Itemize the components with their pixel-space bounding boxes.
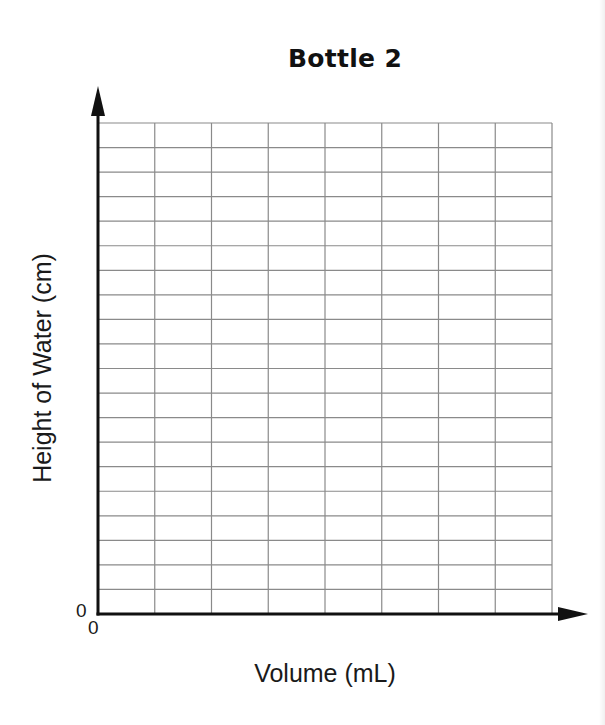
y-axis-label: Height of Water (cm) [28, 253, 57, 483]
x-axis-label: Volume (mL) [0, 659, 605, 688]
x-origin-tick-label: 0 [88, 617, 99, 639]
grid-lines [98, 123, 552, 614]
y-origin-tick-label: 0 [76, 600, 87, 622]
y-axis-arrow-icon [91, 86, 105, 116]
x-axis-arrow-icon [558, 607, 588, 621]
